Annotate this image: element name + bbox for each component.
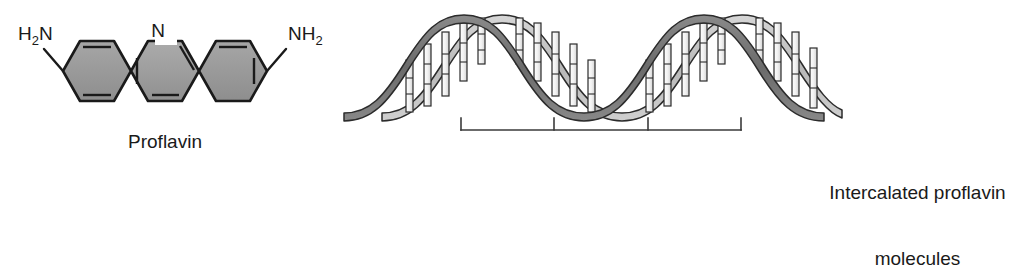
rung (570, 44, 577, 106)
proflavin-structure: H2N NH2 N (0, 0, 330, 131)
rung (534, 23, 541, 81)
intercalation-region-bracket (461, 118, 741, 130)
rung (774, 23, 781, 81)
ring-center (131, 41, 199, 101)
amine-right-label: NH2 (288, 23, 323, 48)
dna-caption: Intercalated proflavin molecules (660, 138, 1009, 269)
rung (588, 60, 595, 112)
dna-caption-line2: molecules (660, 248, 1009, 269)
rung (460, 23, 467, 81)
dna-strand-front (320, 15, 382, 113)
dna-double-helix (330, 0, 845, 138)
rung (810, 48, 817, 108)
acridine-ring-system (63, 30, 267, 101)
bond-amine-left (44, 49, 63, 71)
nitrogen-label: N (151, 20, 165, 41)
bond-amine-right (267, 49, 286, 71)
proflavin-caption: Proflavin (0, 131, 330, 153)
dna-caption-line1: Intercalated proflavin (660, 182, 1009, 204)
proflavin-panel: H2N NH2 N Proflavin (0, 0, 330, 187)
amine-left-label: H2N (18, 23, 53, 48)
rung (442, 32, 449, 96)
rung (552, 32, 559, 96)
rung (792, 32, 799, 96)
rung (700, 23, 707, 81)
ring-left (63, 41, 131, 101)
rung (424, 44, 431, 106)
rung (682, 32, 689, 96)
ring-right (199, 41, 267, 101)
rung (664, 44, 671, 106)
dna-panel: Intercalated proflavin molecules (330, 0, 845, 187)
